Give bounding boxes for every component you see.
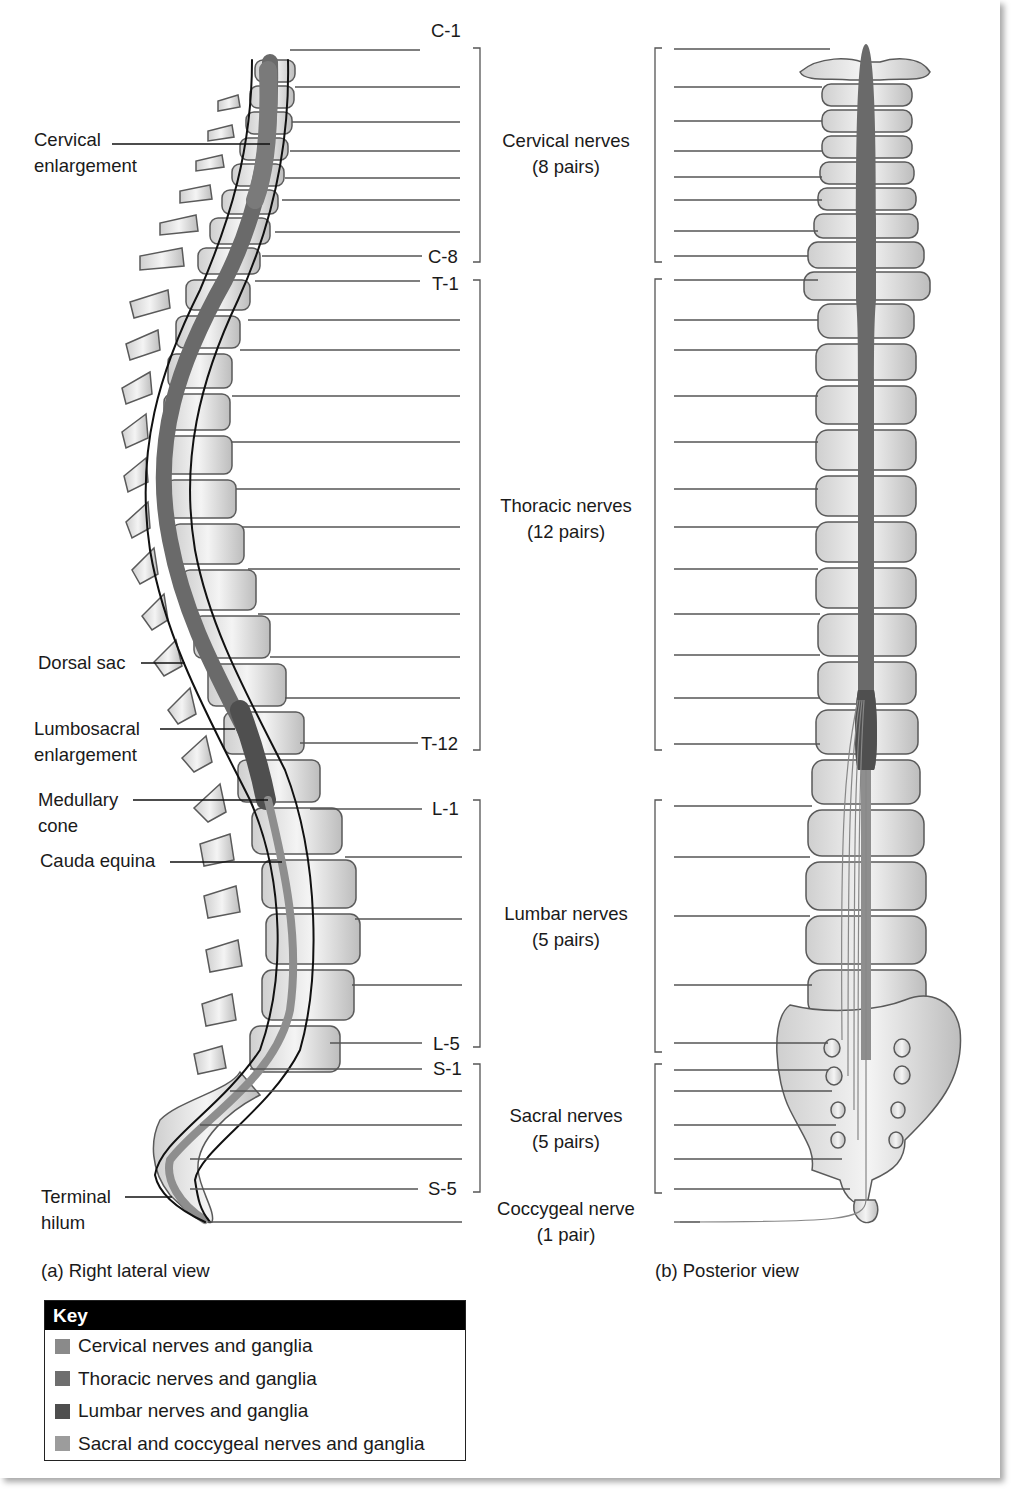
label-line: hilum [41,1210,111,1236]
group-name: Thoracic nerves [476,493,656,519]
label-dorsal-sac: Dorsal sac [38,650,125,676]
group-cervical-nerves: Cervical nerves (8 pairs) [476,128,656,180]
group-count: (1 pair) [476,1222,656,1248]
label-line: Medullary [38,787,118,813]
segment-label-t12: T-12 [421,733,458,755]
segment-label-t1: T-1 [432,273,459,295]
swatch-icon [55,1436,70,1451]
caption-right-lateral-view: (a) Right lateral view [41,1260,210,1282]
group-name: Coccygeal nerve [476,1196,656,1222]
label-terminal-hilum: Terminal hilum [41,1184,111,1236]
swatch-icon [55,1404,70,1419]
color-key: Key Cervical nerves and ganglia Thoracic… [44,1300,466,1461]
segment-label-c8: C-8 [428,246,458,268]
segment-label-s1: S-1 [433,1058,462,1080]
label-line: Cauda equina [40,848,155,874]
segment-label-l5: L-5 [433,1033,460,1055]
segment-label-c1: C-1 [431,20,461,42]
group-count: (5 pairs) [476,927,656,953]
swatch-icon [55,1371,70,1386]
label-line: Lumbosacral [34,716,140,742]
key-item-cervical: Cervical nerves and ganglia [45,1330,465,1363]
group-count: (5 pairs) [476,1129,656,1155]
label-line: cone [38,813,118,839]
group-coccygeal-nerve: Coccygeal nerve (1 pair) [476,1196,656,1248]
segment-label-l1: L-1 [432,798,459,820]
group-count: (12 pairs) [476,519,656,545]
group-name: Cervical nerves [476,128,656,154]
spinal-nerves-illustration [0,0,1000,1478]
key-item-lumbar: Lumbar nerves and ganglia [45,1395,465,1428]
group-name: Sacral nerves [476,1103,656,1129]
group-thoracic-nerves: Thoracic nerves (12 pairs) [476,493,656,545]
swatch-icon [55,1339,70,1354]
label-line: enlargement [34,153,137,179]
group-lumbar-nerves: Lumbar nerves (5 pairs) [476,901,656,953]
label-line: Terminal [41,1184,111,1210]
label-cauda-equina: Cauda equina [40,848,155,874]
segment-label-s5: S-5 [428,1178,457,1200]
key-item-thoracic: Thoracic nerves and ganglia [45,1363,465,1396]
label-line: Dorsal sac [38,650,125,676]
figure-page: Cervical enlargement Dorsal sac Lumbosac… [0,0,1000,1478]
label-medullary-cone: Medullary cone [38,787,118,839]
label-cervical-enlargement: Cervical enlargement [34,127,137,179]
label-line: Cervical [34,127,137,153]
key-item-sacral-coccygeal: Sacral and coccygeal nerves and ganglia [45,1428,465,1461]
group-count: (8 pairs) [476,154,656,180]
group-sacral-nerves: Sacral nerves (5 pairs) [476,1103,656,1155]
key-item-label: Cervical nerves and ganglia [78,1335,312,1357]
key-item-label: Thoracic nerves and ganglia [78,1368,317,1390]
group-name: Lumbar nerves [476,901,656,927]
label-lumbosacral-enlargement: Lumbosacral enlargement [34,716,140,768]
caption-posterior-view: (b) Posterior view [655,1260,799,1282]
key-item-label: Sacral and coccygeal nerves and ganglia [78,1433,424,1455]
label-line: enlargement [34,742,140,768]
key-item-label: Lumbar nerves and ganglia [78,1400,308,1422]
key-title: Key [45,1301,465,1330]
